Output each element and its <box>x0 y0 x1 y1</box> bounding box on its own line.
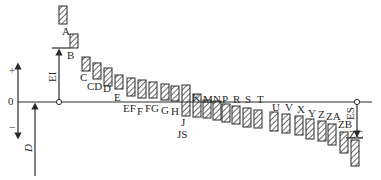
tolerance-zone-z <box>318 121 326 141</box>
tolerance-zone-g <box>161 84 169 100</box>
tolerance-zone-ef <box>127 78 135 96</box>
tolerance-zone-p <box>222 104 230 122</box>
zone-label-a: A <box>62 25 70 37</box>
zone-label-z: Z <box>318 108 325 120</box>
zone-label-d: D <box>103 82 111 94</box>
tolerance-zone-a <box>59 6 67 24</box>
zone-label-k: K <box>192 91 200 103</box>
tolerance-zone-c <box>82 57 90 71</box>
tolerance-zone-x <box>295 116 303 135</box>
zone-label-zc: ZC <box>349 128 363 140</box>
tolerance-zone-e <box>115 75 123 89</box>
zone-label-n: N <box>213 93 221 105</box>
tolerance-zone-cd <box>93 63 101 79</box>
ei-label: EI <box>46 71 58 82</box>
tolerance-zone-y <box>306 119 314 139</box>
zone-label-j: J <box>181 116 186 128</box>
tolerance-zone-za <box>328 124 336 145</box>
tolerance-zone-zc <box>351 140 359 166</box>
tolerance-zone-j <box>182 85 190 116</box>
zone-label-h: H <box>171 105 179 117</box>
zone-label-g: G <box>161 104 169 116</box>
zone-label-cd: CD <box>87 80 102 92</box>
zone-label-t: T <box>257 93 264 105</box>
tolerance-zone-t <box>254 110 262 128</box>
zone-label-p: P <box>222 93 228 105</box>
zone-label-f: F <box>137 105 143 117</box>
es-origin-point <box>354 99 359 104</box>
plus-label: + <box>9 64 15 76</box>
tolerance-zone-s <box>243 108 251 127</box>
zone-label-x: X <box>297 103 305 115</box>
zone-label-b: B <box>67 49 74 61</box>
basic-size-label: D <box>22 144 34 153</box>
tolerance-zones: ABCCDDEEFFFGGHJKMNPRSTUVXYZZAZBZCJS <box>59 6 363 166</box>
zero-label: 0 <box>8 95 14 107</box>
tolerance-zone-v <box>282 114 290 133</box>
zone-label-v: V <box>285 101 293 113</box>
zone-label-r: R <box>233 93 241 105</box>
zone-label-s: S <box>245 93 251 105</box>
tolerance-zone-b <box>70 34 78 48</box>
minus-label: − <box>9 121 15 133</box>
tolerance-zone-zb <box>340 132 348 153</box>
tolerance-zone-fg <box>149 82 157 98</box>
zone-label-m: M <box>203 93 213 105</box>
tolerance-zone-u <box>270 112 278 131</box>
zone-label-y: Y <box>308 107 316 119</box>
zone-label-ef: EF <box>123 102 136 114</box>
tolerance-zone-f <box>138 80 146 98</box>
zone-label-u: U <box>272 101 280 113</box>
tolerance-zone-r <box>232 106 240 124</box>
ei-origin-point <box>56 99 61 104</box>
zone-label-e: E <box>114 91 121 103</box>
tolerance-zone-h <box>171 86 179 101</box>
zone-label-js: JS <box>177 128 187 140</box>
hole-deviation-diagram: + 0 − D EI ES ABCCDDEEFFFGGHJKMNPRSTUVXY… <box>0 0 381 180</box>
zone-label-fg: FG <box>145 102 159 114</box>
